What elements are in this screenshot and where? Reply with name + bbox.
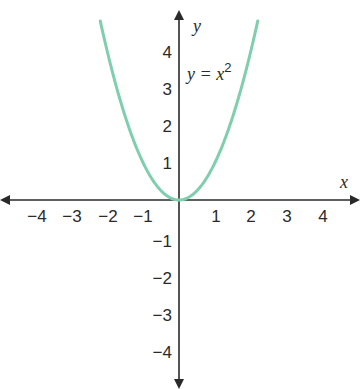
coordinate-plane: x y −4 −3 −2 −1 1 2 3 4 4 3 2 1 −1 −2 −3… (0, 0, 362, 389)
y-tick-label: −1 (153, 232, 172, 251)
y-tick-label: 4 (163, 43, 172, 62)
x-tick-label: 4 (318, 207, 327, 226)
x-tick-label: −3 (62, 207, 81, 226)
y-tick-label: 2 (163, 117, 172, 136)
y-tick-label: 1 (163, 154, 172, 173)
equation-base: y = x (185, 64, 224, 84)
y-axis-label: y (191, 16, 201, 36)
x-tick-labels: −4 −3 −2 −1 1 2 3 4 (27, 207, 327, 226)
x-tick-label: −4 (27, 207, 46, 226)
x-tick-label: 1 (211, 207, 220, 226)
y-tick-label: −2 (153, 269, 172, 288)
x-tick-label: −2 (98, 207, 117, 226)
y-tick-label: −4 (153, 343, 172, 362)
equation-exponent: 2 (224, 60, 231, 75)
y-tick-labels: 4 3 2 1 −1 −2 −3 −4 (153, 43, 172, 362)
equation-label: y = x2 (185, 60, 231, 84)
x-tick-label: −1 (133, 207, 152, 226)
x-axis-label: x (339, 172, 348, 192)
x-tick-label: 3 (282, 207, 291, 226)
y-tick-label: −3 (153, 306, 172, 325)
x-tick-label: 2 (246, 207, 255, 226)
y-tick-label: 3 (163, 80, 172, 99)
